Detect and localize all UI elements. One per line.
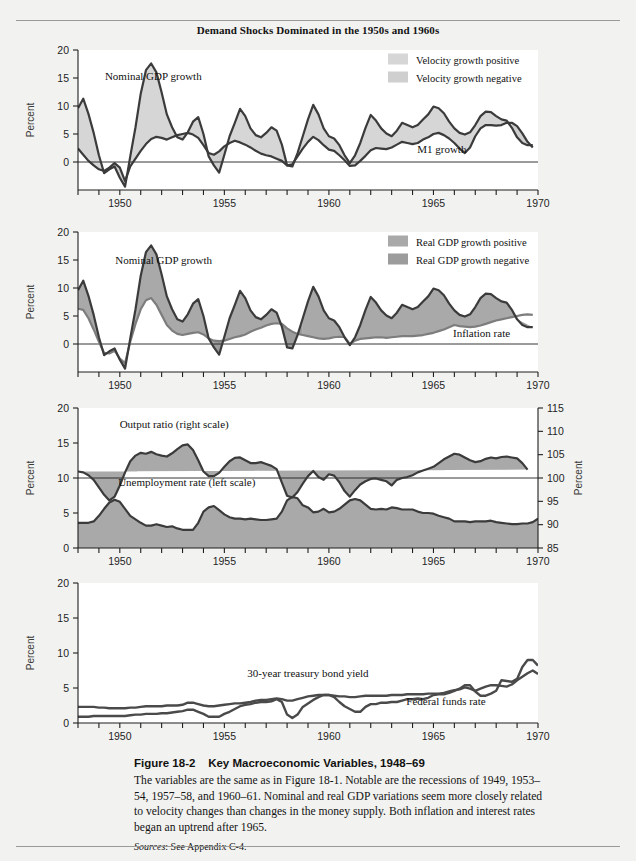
y2-tick-label: 110 xyxy=(547,425,564,437)
y2-tick-label: 85 xyxy=(547,542,559,554)
y-tick-label: 0 xyxy=(63,156,69,168)
figure-root: Demand Shocks Dominated in the 1950s and… xyxy=(0,0,636,861)
caption-body: The variables are the same as in Figure … xyxy=(134,773,554,835)
x-tick-label: 1970 xyxy=(526,555,550,567)
y-tick-label: 0 xyxy=(63,338,69,350)
legend-swatch xyxy=(388,254,408,265)
y-tick-label: 15 xyxy=(57,612,69,624)
y-tick-label: 5 xyxy=(63,682,69,694)
x-tick-label: 1950 xyxy=(108,197,132,209)
y-tick-label: 10 xyxy=(57,100,69,112)
chart-panel-output-unemployment: 05101520Percent859095100105110115Percent… xyxy=(0,400,636,578)
y2-tick-label: 115 xyxy=(547,402,564,414)
series-annotation: M1 growth xyxy=(417,143,467,155)
x-tick-label: 1950 xyxy=(108,379,132,391)
series-annotation: Inflation rate xyxy=(453,327,510,339)
y-tick-label: 5 xyxy=(63,310,69,322)
caption-figure-number: Figure 18-2 xyxy=(134,757,195,769)
x-tick-label: 1965 xyxy=(422,197,446,209)
chart-panel-interest-rates: 05101520Percent1950195519601965197030-ye… xyxy=(0,575,636,753)
x-tick-label: 1955 xyxy=(213,197,237,209)
x-tick-label: 1955 xyxy=(213,730,237,742)
y-tick-label: 15 xyxy=(57,254,69,266)
chart-panel-nominal-vs-inflation: 05101520Percent19501955196019651970Nomin… xyxy=(0,222,636,402)
y2-tick-label: 95 xyxy=(547,495,559,507)
y2-tick-label: 105 xyxy=(547,448,565,460)
x-tick-label: 1950 xyxy=(108,730,132,742)
y-axis-title: Percent xyxy=(25,103,36,138)
x-tick-label: 1960 xyxy=(317,555,341,567)
y-tick-label: 0 xyxy=(63,542,69,554)
y-tick-label: 10 xyxy=(57,282,69,294)
legend-swatch xyxy=(388,72,408,83)
x-tick-label: 1955 xyxy=(213,555,237,567)
y2-axis-title: Percent xyxy=(573,461,584,496)
x-tick-label: 1960 xyxy=(317,197,341,209)
y-axis-title: Percent xyxy=(25,285,36,320)
y-tick-label: 10 xyxy=(57,647,69,659)
y-tick-label: 20 xyxy=(57,226,69,238)
series-annotation: 30-year treasury bond yield xyxy=(247,667,369,679)
y-tick-label: 20 xyxy=(57,402,69,414)
x-tick-label: 1955 xyxy=(213,379,237,391)
x-tick-label: 1965 xyxy=(422,555,446,567)
legend-label: Velocity growth positive xyxy=(416,55,520,66)
chart-svg-panel-nominal-vs-m1: 05101520Percent19501955196019651970Nomin… xyxy=(0,40,636,225)
x-tick-label: 1950 xyxy=(108,555,132,567)
series-annotation: Federal funds rate xyxy=(406,695,486,707)
caption-figure-title: Key Macroeconomic Variables, 1948–69 xyxy=(208,757,425,769)
x-tick-label: 1960 xyxy=(317,379,341,391)
series-annotation: Unemployment rate (left scale) xyxy=(118,476,255,489)
top-divider xyxy=(16,20,620,21)
y-axis-title: Percent xyxy=(25,461,36,496)
legend-swatch xyxy=(388,236,408,247)
chart-panel-nominal-vs-m1: 05101520Percent19501955196019651970Nomin… xyxy=(0,40,636,225)
y-tick-label: 0 xyxy=(63,717,69,729)
x-tick-label: 1960 xyxy=(317,730,341,742)
y-axis-title: Percent xyxy=(25,636,36,671)
caption-heading: Figure 18-2 Key Macroeconomic Variables,… xyxy=(134,756,554,770)
legend-label: Real GDP growth positive xyxy=(416,237,527,248)
chart-svg-panel-nominal-vs-inflation: 05101520Percent19501955196019651970Nomin… xyxy=(0,222,636,402)
series-annotation: Nominal GDP growth xyxy=(115,254,212,266)
y-tick-label: 20 xyxy=(57,577,69,589)
legend-label: Real GDP growth negative xyxy=(416,255,529,266)
x-tick-label: 1965 xyxy=(422,730,446,742)
y-tick-label: 10 xyxy=(57,472,69,484)
x-tick-label: 1970 xyxy=(526,379,550,391)
x-tick-label: 1965 xyxy=(422,379,446,391)
x-tick-label: 1970 xyxy=(526,197,550,209)
y-tick-label: 15 xyxy=(57,72,69,84)
series-annotation: Output ratio (right scale) xyxy=(120,418,229,431)
y2-tick-label: 100 xyxy=(547,472,565,484)
legend-label: Velocity growth negative xyxy=(416,73,522,84)
legend-swatch xyxy=(388,54,408,65)
figure-title: Demand Shocks Dominated in the 1950s and… xyxy=(0,24,636,36)
series-annotation: Nominal GDP growth xyxy=(105,70,202,82)
y2-tick-label: 90 xyxy=(547,518,559,530)
chart-svg-panel-output-unemployment: 05101520Percent859095100105110115Percent… xyxy=(0,400,636,578)
y-tick-label: 5 xyxy=(63,507,69,519)
chart-svg-panel-interest-rates: 05101520Percent1950195519601965197030-ye… xyxy=(0,575,636,753)
y-tick-label: 5 xyxy=(63,128,69,140)
y-tick-label: 15 xyxy=(57,437,69,449)
figure-caption: Figure 18-2 Key Macroeconomic Variables,… xyxy=(134,756,554,852)
y-tick-label: 20 xyxy=(57,44,69,56)
bottom-divider xyxy=(16,846,620,847)
x-tick-label: 1970 xyxy=(526,730,550,742)
